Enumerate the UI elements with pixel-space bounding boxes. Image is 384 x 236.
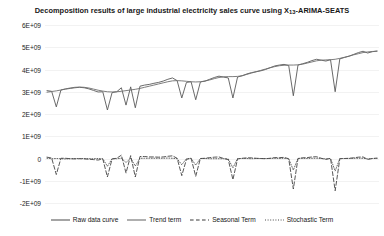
y-axis-tick-label: 5E+09 xyxy=(22,44,41,51)
y-axis-tick-label: 6E+09 xyxy=(22,22,41,29)
series-line-trend-term xyxy=(47,51,377,92)
chart-title: Decomposition results of large industria… xyxy=(0,6,384,15)
legend-item-raw-data-curve[interactable]: Raw data curve xyxy=(51,216,119,223)
y-axis-tick-labels: 6E+095E+094E+093E+092E+091E+090-1E+09-2E… xyxy=(0,25,41,203)
y-axis-tick-label: 0 xyxy=(37,155,41,162)
legend-label: Seasonal Term xyxy=(212,216,256,223)
y-axis-tick-label: -1E+09 xyxy=(20,177,41,184)
legend-label: Raw data curve xyxy=(73,216,119,223)
legend-item-trend-term[interactable]: Trend term xyxy=(127,216,181,223)
y-axis-tick-label: 2E+09 xyxy=(22,111,41,118)
legend-swatch xyxy=(127,217,146,223)
chart-title-main: Decomposition results of large industria… xyxy=(35,6,289,15)
legend-label: Trend term xyxy=(149,216,181,223)
chart-legend: Raw data curveTrend termSeasonal TermSto… xyxy=(0,216,384,223)
chart-title-tail: -ARIMA-SEATS xyxy=(296,6,350,15)
legend-swatch xyxy=(51,217,70,223)
y-axis-tick-label: 3E+09 xyxy=(22,88,41,95)
y-axis-tick-label: -2E+09 xyxy=(20,200,41,207)
y-axis-tick-label: 1E+09 xyxy=(22,133,41,140)
legend-swatch xyxy=(265,217,284,223)
legend-item-seasonal-term[interactable]: Seasonal Term xyxy=(190,216,256,223)
legend-item-stochastic-term[interactable]: Stochastic Term xyxy=(265,216,333,223)
series-line-seasonal-term xyxy=(47,155,377,191)
legend-swatch xyxy=(190,217,209,223)
legend-label: Stochastic Term xyxy=(287,216,333,223)
y-axis-tick-label: 4E+09 xyxy=(22,66,41,73)
gridline xyxy=(45,203,379,204)
series-layer xyxy=(45,25,379,203)
chart-container: Decomposition results of large industria… xyxy=(0,0,384,236)
